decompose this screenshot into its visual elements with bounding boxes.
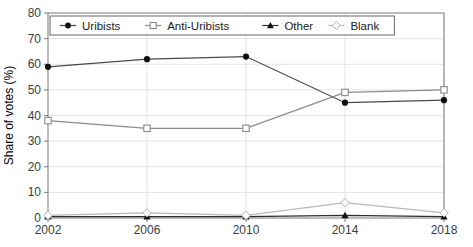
- square-marker: [243, 125, 249, 131]
- x-tick-label: 2006: [134, 223, 161, 237]
- x-tick-label: 2002: [35, 223, 62, 237]
- legend-label: Anti-Uribists: [167, 20, 229, 32]
- legend-label: Blank: [350, 20, 379, 32]
- y-tick-label: 50: [28, 83, 42, 97]
- diamond-marker: [341, 198, 349, 206]
- diamond-marker: [440, 209, 448, 217]
- y-tick-label: 60: [28, 57, 42, 71]
- vote-share-line-chart: 0102030405060708020022006201020142018Uri…: [0, 0, 473, 247]
- circle-marker: [243, 53, 249, 59]
- y-tick-label: 40: [28, 109, 42, 123]
- chart-plot-area: 0102030405060708020022006201020142018Uri…: [28, 6, 458, 237]
- square-marker: [441, 87, 447, 93]
- circle-marker: [144, 56, 150, 62]
- circle-marker: [65, 23, 71, 29]
- circle-marker: [441, 97, 447, 103]
- legend: UribistsAnti-UribistsOtherBlank: [50, 16, 394, 35]
- square-marker: [342, 89, 348, 95]
- circle-marker: [45, 64, 51, 70]
- vote-share-chart-figure: 0102030405060708020022006201020142018Uri…: [0, 0, 473, 247]
- legend-label: Other: [284, 20, 313, 32]
- x-tick-label: 2010: [233, 223, 260, 237]
- y-axis-label: Share of votes (%): [2, 66, 16, 165]
- diamond-marker: [143, 209, 151, 217]
- x-tick-label: 2014: [332, 223, 359, 237]
- y-tick-label: 20: [28, 160, 42, 174]
- y-tick-label: 30: [28, 134, 42, 148]
- square-marker: [45, 117, 51, 123]
- y-tick-label: 10: [28, 185, 42, 199]
- square-marker: [144, 125, 150, 131]
- legend-item-blank: Blank: [328, 20, 379, 32]
- square-marker: [150, 22, 156, 28]
- legend-label: Uribists: [82, 20, 121, 32]
- x-tick-label: 2018: [431, 223, 458, 237]
- y-tick-label: 80: [28, 6, 42, 20]
- y-tick-label: 70: [28, 32, 42, 46]
- circle-marker: [342, 100, 348, 106]
